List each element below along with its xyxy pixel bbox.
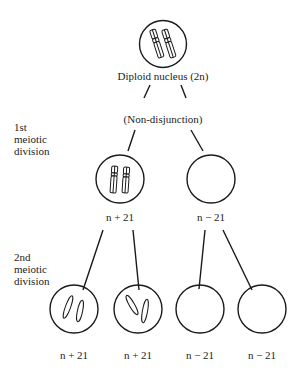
gamete-4-label: n − 21 <box>248 349 276 362</box>
second-division-label: 2nd meiotic division <box>14 251 49 287</box>
chromatid-icon <box>61 295 84 322</box>
chromosome-pair-icon <box>150 29 177 58</box>
n-minus-21-label: n − 21 <box>197 211 225 224</box>
non-disjunction-text: (Non-disjunction) <box>124 113 203 125</box>
gamete-2-label: n + 21 <box>124 349 152 362</box>
karyotype-text: n + 21 <box>106 211 134 223</box>
karyotype-text: n + 21 <box>60 349 88 361</box>
gamete-3-circle <box>176 285 224 333</box>
stage-label-line: division <box>14 145 49 157</box>
diploid-nucleus-label: Diploid nucleus (2n) <box>117 70 208 83</box>
meiosis-diagram <box>0 0 305 375</box>
karyotype-text: n + 21 <box>124 349 152 361</box>
stage-label-line: 2nd <box>14 251 49 263</box>
n-plus-21-label: n + 21 <box>106 211 134 224</box>
non-disjunction-label: (Non-disjunction) <box>124 113 203 126</box>
edge-top-to-event-left <box>144 85 150 98</box>
nucleus-n-plus-21-circle <box>96 155 144 203</box>
gamete-4-circle <box>238 285 286 333</box>
karyotype-text: n − 21 <box>248 349 276 361</box>
chromosome-pair-icon <box>110 166 130 193</box>
nucleus-n-minus-21-circle <box>187 155 235 203</box>
stage-label-line: meiotic <box>14 263 49 275</box>
edge-event-to-right <box>191 130 203 151</box>
edge-event-to-left <box>128 130 135 151</box>
diploid-nucleus-circle <box>140 21 187 68</box>
chromatid-icon <box>124 294 149 323</box>
gamete-3-label: n − 21 <box>186 349 214 362</box>
edge-r1-to-b4 <box>223 230 252 290</box>
karyotype-text: n − 21 <box>197 211 225 223</box>
edge-r1-to-b3 <box>199 230 205 289</box>
stage-label-line: 1st <box>14 121 49 133</box>
stage-label-line: division <box>14 275 49 287</box>
diploid-nucleus-text: Diploid nucleus (2n) <box>117 70 208 82</box>
gamete-1-circle <box>50 285 98 333</box>
gamete-1-label: n + 21 <box>60 349 88 362</box>
edge-l1-to-b1 <box>83 230 103 290</box>
karyotype-text: n − 21 <box>186 349 214 361</box>
stage-label-line: meiotic <box>14 133 49 145</box>
gamete-2-circle <box>114 285 162 333</box>
edge-l1-to-b2 <box>133 230 139 290</box>
first-division-label: 1st meiotic division <box>14 121 49 157</box>
edge-top-to-event-right <box>181 85 186 98</box>
